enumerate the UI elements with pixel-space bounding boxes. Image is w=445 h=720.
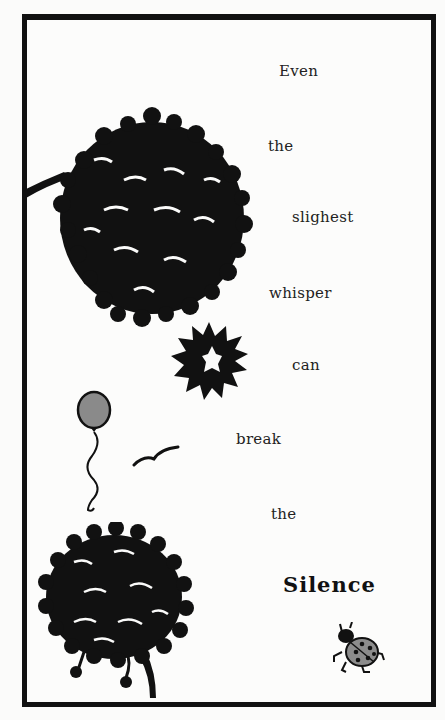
poem-line-can: can bbox=[292, 356, 320, 374]
poem-line-slightest: slighest bbox=[292, 208, 354, 226]
poem-line-whisper: whisper bbox=[269, 284, 332, 302]
bird-illustration bbox=[132, 441, 180, 469]
ladybug-illustration bbox=[332, 622, 386, 674]
poem-line-the-2: the bbox=[271, 505, 296, 523]
tree-bottom-illustration bbox=[34, 522, 194, 698]
balloon-illustration bbox=[74, 390, 114, 512]
tree-top-illustration bbox=[24, 100, 254, 335]
poem-line-the-1: the bbox=[268, 137, 293, 155]
poem-line-even: Even bbox=[279, 62, 318, 80]
poem-line-silence: Silence bbox=[283, 572, 376, 597]
sun-illustration bbox=[168, 320, 250, 402]
poem-line-break: break bbox=[236, 430, 281, 448]
poem-period: . bbox=[366, 578, 371, 596]
